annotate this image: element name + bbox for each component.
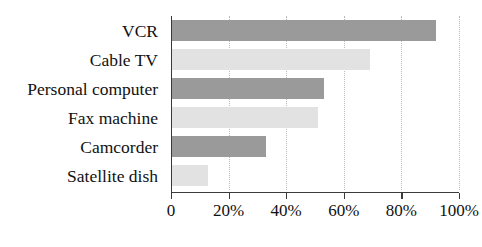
y-axis-label-5: Satellite dish bbox=[0, 166, 158, 186]
gridline-80 bbox=[401, 16, 403, 190]
bar-2 bbox=[171, 78, 324, 99]
x-axis-tick-label-2: 40% bbox=[271, 200, 302, 221]
x-axis-tick-label-3: 60% bbox=[328, 200, 359, 221]
y-axis-label-0: VCR bbox=[0, 21, 158, 41]
y-axis-label-4: Camcorder bbox=[0, 137, 158, 157]
bar-4 bbox=[171, 136, 266, 157]
y-axis-label-3: Fax machine bbox=[0, 108, 158, 128]
bar-1 bbox=[171, 49, 370, 70]
y-axis-line bbox=[171, 16, 172, 193]
gridline-100 bbox=[459, 16, 461, 190]
x-axis-tick-label-1: 20% bbox=[213, 200, 244, 221]
x-axis-tick-4 bbox=[401, 193, 402, 199]
x-axis-tick-2 bbox=[286, 193, 287, 199]
x-axis-tick-5 bbox=[459, 193, 460, 199]
x-axis-tick-3 bbox=[344, 193, 345, 199]
x-axis-tick-0 bbox=[171, 193, 172, 199]
y-axis-label-2: Personal computer bbox=[0, 79, 158, 99]
x-axis-tick-label-4: 80% bbox=[386, 200, 417, 221]
bar-5 bbox=[171, 165, 208, 186]
x-axis-tick-label-0: 0 bbox=[167, 200, 176, 221]
y-axis-label-1: Cable TV bbox=[0, 50, 158, 70]
x-axis-tick-1 bbox=[229, 193, 230, 199]
x-axis-tick-label-5: 100% bbox=[439, 200, 479, 221]
bar-chart: VCR Cable TV Personal computer Fax machi… bbox=[0, 0, 482, 247]
bar-0 bbox=[171, 20, 436, 41]
gridline-40 bbox=[286, 16, 288, 190]
gridline-60 bbox=[344, 16, 346, 190]
x-axis-line bbox=[171, 192, 459, 193]
plot-area bbox=[171, 16, 460, 190]
y-axis-category-labels: VCR Cable TV Personal computer Fax machi… bbox=[0, 16, 164, 190]
bar-3 bbox=[171, 107, 318, 128]
gridline-20 bbox=[229, 16, 231, 190]
